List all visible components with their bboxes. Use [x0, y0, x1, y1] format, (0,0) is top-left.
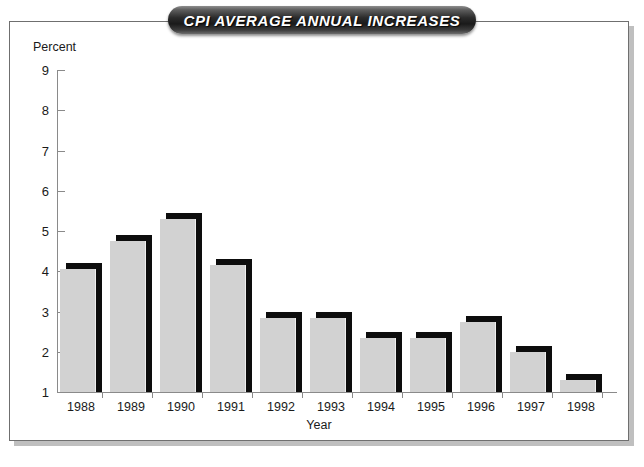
bar — [460, 322, 496, 392]
y-tick — [57, 110, 65, 111]
y-tick — [57, 70, 65, 71]
bar — [310, 318, 346, 393]
y-tick-label: 5 — [23, 224, 49, 239]
x-tick — [152, 392, 153, 398]
x-tick-label: 1994 — [358, 400, 404, 414]
y-tick — [57, 151, 65, 152]
x-tick-label: 1995 — [408, 400, 454, 414]
x-tick-label: 1991 — [208, 400, 254, 414]
x-tick — [302, 392, 303, 398]
x-tick — [202, 392, 203, 398]
x-tick-label: 1992 — [258, 400, 304, 414]
y-tick — [57, 231, 65, 232]
y-tick-label: 9 — [23, 63, 49, 78]
bar — [260, 318, 296, 393]
bar — [210, 265, 246, 392]
chart-title: CPI AVERAGE ANNUAL INCREASES — [184, 12, 461, 29]
x-axis-line — [57, 392, 617, 393]
x-tick-label: 1988 — [58, 400, 104, 414]
y-tick — [57, 392, 65, 393]
x-tick — [102, 392, 103, 398]
y-tick — [57, 191, 65, 192]
y-axis-title: Percent — [33, 40, 76, 54]
y-tick-label: 6 — [23, 183, 49, 198]
x-axis-title: Year — [9, 418, 629, 432]
bar — [410, 338, 446, 392]
bar — [560, 380, 596, 392]
y-tick-label: 4 — [23, 264, 49, 279]
bar — [60, 269, 96, 392]
chart-title-banner: CPI AVERAGE ANNUAL INCREASES — [168, 6, 476, 34]
bar — [510, 352, 546, 392]
x-tick-label: 1997 — [508, 400, 554, 414]
plot-area: Percent 123456789 1988198919901991199219… — [9, 21, 629, 441]
x-tick-label: 1989 — [108, 400, 154, 414]
x-tick-label: 1996 — [458, 400, 504, 414]
y-tick-label: 3 — [23, 304, 49, 319]
x-tick — [602, 392, 603, 398]
x-tick — [552, 392, 553, 398]
x-tick-label: 1990 — [158, 400, 204, 414]
y-tick-label: 8 — [23, 103, 49, 118]
x-tick-label: 1993 — [308, 400, 354, 414]
x-tick — [502, 392, 503, 398]
y-tick-label: 7 — [23, 143, 49, 158]
bar — [360, 338, 396, 392]
x-tick-label: 1998 — [558, 400, 604, 414]
y-tick-label: 2 — [23, 344, 49, 359]
y-tick-label: 1 — [23, 385, 49, 400]
bar — [110, 241, 146, 392]
x-tick — [402, 392, 403, 398]
x-tick — [352, 392, 353, 398]
bar — [160, 219, 196, 392]
x-tick — [452, 392, 453, 398]
x-tick — [252, 392, 253, 398]
